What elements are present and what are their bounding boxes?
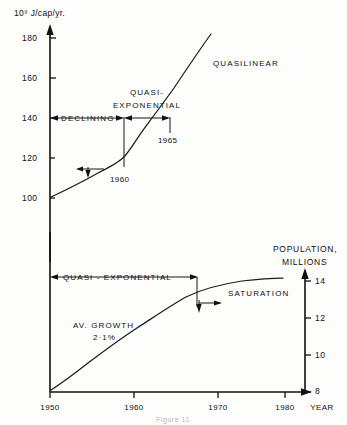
lower-growth-label: AV. GROWTH bbox=[73, 321, 134, 330]
lower-axis-title-line1: POPULATION, bbox=[273, 244, 337, 254]
lower-x-ticks bbox=[50, 392, 285, 398]
upper-ytick-label-180: 180 bbox=[22, 33, 37, 43]
upper-quasi-arrow-right bbox=[162, 115, 170, 121]
lower-phase-saturation-label: SATURATION bbox=[228, 289, 289, 298]
upper-phase-quasi-label-line2: EXPONENTIAL bbox=[113, 101, 181, 110]
upper-unit-label: 10⁹ J/cap/yr. bbox=[14, 8, 65, 18]
lower-right-axis-arrowhead bbox=[301, 268, 308, 279]
lower-xtick-label-1970: 1970 bbox=[208, 403, 228, 412]
upper-breakpoint-label-1965: 1965 bbox=[158, 136, 178, 145]
lower-chart: 14 12 10 8 POPULATION, MILLIONS 1950 196… bbox=[40, 232, 337, 412]
upper-quasi-arrow-left bbox=[124, 115, 132, 121]
lower-ytick-label-14: 14 bbox=[315, 276, 325, 286]
lower-saturation-arrowhead-down bbox=[196, 304, 201, 313]
upper-phase-declining-label: DECLINING bbox=[61, 114, 114, 123]
lower-xtick-label-1960: 1960 bbox=[124, 403, 144, 412]
lower-ytick-label-10: 10 bbox=[315, 350, 325, 360]
lower-growth-value: 2·1% bbox=[93, 333, 116, 342]
lower-xaxis-label: YEAR bbox=[310, 403, 333, 412]
upper-ytick-label-160: 160 bbox=[22, 73, 37, 83]
figure-container: 10⁹ J/cap/yr. 180 160 140 120 100 bbox=[0, 0, 347, 425]
upper-breakpoint-label-1960: 1960 bbox=[110, 175, 130, 184]
lower-xtick-label-1950: 1950 bbox=[40, 403, 60, 412]
figure-caption: Figure 11 bbox=[156, 416, 190, 424]
upper-curve-marker-arrowhead-down bbox=[85, 170, 90, 178]
upper-ytick-label-140: 140 bbox=[22, 113, 37, 123]
upper-declining-arrow-left bbox=[50, 115, 58, 121]
upper-curve-marker-arrowhead-left bbox=[76, 167, 83, 172]
upper-ytick-label-100: 100 bbox=[22, 193, 37, 203]
upper-phase-quasi-label-line1: QUASI- bbox=[130, 88, 164, 97]
figure-svg: 10⁹ J/cap/yr. 180 160 140 120 100 bbox=[0, 0, 347, 425]
lower-ytick-label-8: 8 bbox=[315, 386, 320, 396]
upper-chart: 10⁹ J/cap/yr. 180 160 140 120 100 bbox=[14, 8, 279, 262]
lower-phase-quasi-exponential-label: QUASI - EXPONENTIAL bbox=[63, 273, 172, 282]
lower-right-ticks bbox=[305, 281, 311, 392]
lower-ytick-label-12: 12 bbox=[315, 313, 325, 323]
lower-axis-title-line2: MILLIONS bbox=[282, 257, 327, 267]
upper-quasi-exponential-span bbox=[124, 115, 170, 121]
lower-quasi-arrow-left bbox=[50, 274, 58, 280]
lower-saturation-arrowhead-right bbox=[214, 300, 222, 305]
upper-declining-arrow-right bbox=[116, 115, 124, 121]
lower-saturation-marker bbox=[196, 300, 222, 313]
upper-y-axis-arrowhead bbox=[46, 24, 53, 35]
lower-xtick-label-1980: 1980 bbox=[275, 403, 295, 412]
upper-ytick-label-120: 120 bbox=[22, 153, 37, 163]
upper-phase-quasilinear-label: QUASILINEAR bbox=[213, 59, 279, 68]
